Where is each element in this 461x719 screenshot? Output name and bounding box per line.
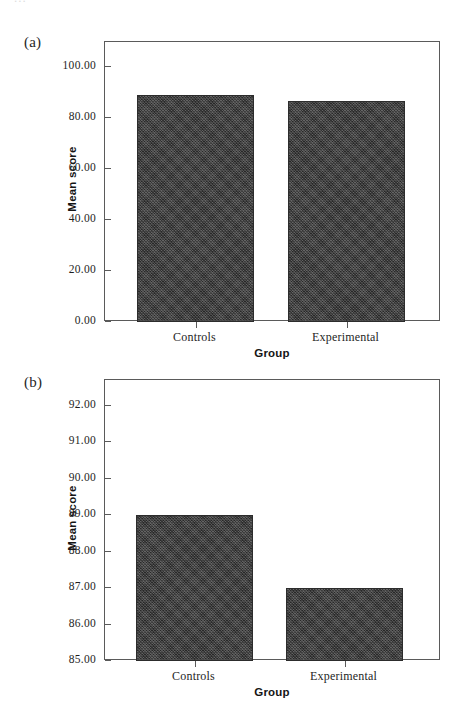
panel-b: (b) Mean score 85.0086.0087.0088.0089.00… xyxy=(0,352,461,719)
y-tick-label: 91.00 xyxy=(69,434,96,446)
panel-b-x-axis-title: Group xyxy=(254,686,290,698)
y-tick-label: 85.00 xyxy=(69,653,96,665)
y-tick-label: 89.00 xyxy=(69,507,96,519)
y-tick-mark xyxy=(105,168,111,169)
x-tick-label: Controls xyxy=(173,330,216,345)
y-tick-mark xyxy=(105,270,111,271)
y-tick-label: 87.00 xyxy=(69,580,96,592)
y-tick-label: 100.00 xyxy=(63,59,96,71)
y-tick-mark xyxy=(105,219,111,220)
y-tick-mark xyxy=(105,514,111,515)
y-tick-mark xyxy=(105,321,111,322)
bar-controls xyxy=(137,95,254,322)
y-tick-label: 90.00 xyxy=(69,471,96,483)
x-tick-label: Experimental xyxy=(312,330,379,345)
panel-b-tag: (b) xyxy=(24,374,42,391)
x-tick-mark xyxy=(196,322,197,328)
y-tick-label: 20.00 xyxy=(69,263,96,275)
y-tick-mark xyxy=(105,624,111,625)
x-tick-label: Controls xyxy=(172,669,215,684)
panel-a-plot-area: 0.0020.0040.0060.0080.00100.00 xyxy=(104,41,440,321)
y-tick-mark xyxy=(105,405,111,406)
y-tick-label: 88.00 xyxy=(69,544,96,556)
x-tick-mark xyxy=(345,661,346,667)
y-tick-mark xyxy=(105,66,111,67)
x-tick-mark xyxy=(347,322,348,328)
x-tick-mark xyxy=(195,661,196,667)
y-tick-label: 40.00 xyxy=(69,212,96,224)
y-tick-mark xyxy=(105,660,111,661)
y-tick-mark xyxy=(105,478,111,479)
bar-experimental xyxy=(288,101,405,322)
bar-controls xyxy=(136,515,253,661)
y-tick-mark xyxy=(105,441,111,442)
panel-a: (a) Mean score 0.0020.0040.0060.0080.001… xyxy=(0,0,461,360)
bar-experimental xyxy=(286,588,403,661)
y-tick-mark xyxy=(105,551,111,552)
panel-a-tag: (a) xyxy=(24,34,41,51)
y-tick-label: 0.00 xyxy=(75,314,96,326)
y-tick-mark xyxy=(105,117,111,118)
panel-b-plot-area: 85.0086.0087.0088.0089.0090.0091.0092.00 xyxy=(104,379,440,660)
y-tick-label: 60.00 xyxy=(69,161,96,173)
x-tick-label: Experimental xyxy=(310,669,377,684)
y-tick-label: 86.00 xyxy=(69,617,96,629)
y-tick-label: 92.00 xyxy=(69,398,96,410)
y-tick-label: 80.00 xyxy=(69,110,96,122)
y-tick-mark xyxy=(105,587,111,588)
